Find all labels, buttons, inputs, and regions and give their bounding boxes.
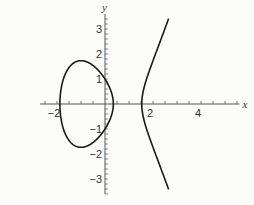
ticks xyxy=(45,19,237,194)
x-tick-label: 4 xyxy=(195,107,201,119)
x-tick-label: −2 xyxy=(48,107,61,119)
x-tick-label: 2 xyxy=(147,107,153,119)
y-tick-label: −1 xyxy=(89,123,102,135)
y-tick-label: 2 xyxy=(96,48,102,60)
y-tick-label: −3 xyxy=(89,173,102,185)
elliptic-curve-plot: −224321−1−2−3 x y xyxy=(0,0,254,205)
y-tick-label: 3 xyxy=(96,23,102,35)
y-tick-label: −2 xyxy=(89,148,102,160)
x-axis-label: x xyxy=(241,98,247,110)
y-axis-label: y xyxy=(101,1,107,13)
axes xyxy=(40,14,239,194)
